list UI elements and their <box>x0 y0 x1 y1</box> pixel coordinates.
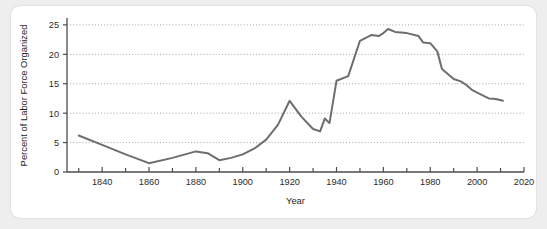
x-tick-label-1980: 1980 <box>420 177 440 187</box>
gridlines-group <box>67 25 524 143</box>
x-tick-labels-group: 1840186018801900192019401960198020002020 <box>92 177 534 187</box>
y-tick-label-20: 20 <box>49 50 59 60</box>
x-tick-label-1840: 1840 <box>92 177 112 187</box>
chart-plot-area: 1840186018801900192019401960198020002020… <box>11 6 536 218</box>
y-tick-label-15: 15 <box>49 79 59 89</box>
x-tick-label-1880: 1880 <box>186 177 206 187</box>
y-tick-label-5: 5 <box>54 138 59 148</box>
y-tick-label-0: 0 <box>54 167 59 177</box>
x-tick-label-2000: 2000 <box>467 177 487 187</box>
y-axis-title: Percent of Labor Force Organized <box>18 25 29 167</box>
y-tick-label-25: 25 <box>49 20 59 30</box>
x-tick-label-1900: 1900 <box>233 177 253 187</box>
x-axis-title: Year <box>286 195 305 206</box>
x-tick-label-1920: 1920 <box>279 177 299 187</box>
y-tick-labels-group: 0510152025 <box>49 20 59 177</box>
y-tick-label-10: 10 <box>49 109 59 119</box>
line-chart: 1840186018801900192019401960198020002020… <box>11 6 536 218</box>
data-series-line <box>79 29 503 163</box>
x-tick-label-1940: 1940 <box>326 177 346 187</box>
x-tick-label-1860: 1860 <box>139 177 159 187</box>
x-tick-label-1960: 1960 <box>373 177 393 187</box>
chart-card: 1840186018801900192019401960198020002020… <box>11 6 536 218</box>
x-tick-label-2020: 2020 <box>514 177 534 187</box>
